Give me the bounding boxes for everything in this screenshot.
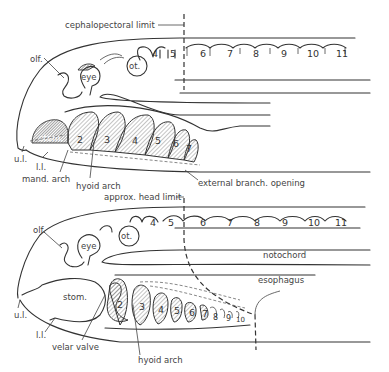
svg-text:eye: eye [81,241,97,251]
svg-text:7: 7 [227,217,233,228]
svg-text:notochord: notochord [263,250,306,260]
svg-text:9: 9 [226,314,231,323]
svg-text:11: 11 [335,217,347,228]
svg-text:4: 4 [150,217,156,228]
notochord-lens [100,94,270,115]
svg-text:mand. arch: mand. arch [22,174,70,184]
head-limit-label: approx. head limit [104,192,182,202]
somite-4: 4 [152,48,158,59]
svg-text:5: 5 [168,217,174,228]
somite-scallops [186,44,346,48]
somite-7: 7 [227,48,233,59]
svg-text:external branch. opening: external branch. opening [198,178,305,188]
svg-text:ot.: ot. [121,231,132,241]
somite-9: 9 [281,48,287,59]
svg-text:hyoid arch: hyoid arch [76,181,121,191]
bottom-panel: approx. head limit notochord esophagus 4… [14,192,370,365]
svg-text:6: 6 [189,307,195,318]
somite-10: 10 [307,48,319,59]
svg-text:eye: eye [81,72,97,82]
embryo-head-diagram: cephalopectoral limit 4 5 6 7 8 9 10 11 … [0,0,389,372]
cephalopectoral-limit-label: cephalopectoral limit [65,20,155,30]
svg-text:u.l.: u.l. [14,154,27,164]
svg-text:7: 7 [202,308,208,319]
svg-text:u.l.: u.l. [14,310,27,320]
ventral-outline-top [26,150,370,172]
svg-text:10: 10 [236,316,245,324]
svg-text:stom.: stom. [63,292,87,302]
svg-text:10: 10 [308,217,320,228]
somite-8: 8 [253,48,259,59]
svg-text:9: 9 [282,217,288,228]
somite-11: 11 [336,48,348,59]
svg-text:stom.: stom. [39,133,63,143]
svg-text:hyoid arch: hyoid arch [138,355,183,365]
svg-text:olf.: olf. [30,54,43,64]
svg-text:5: 5 [155,135,161,146]
svg-text:olf.: olf. [33,225,46,235]
top-panel: cephalopectoral limit 4 5 6 7 8 9 10 11 … [14,14,370,191]
svg-text:3: 3 [104,134,110,145]
somite-5: 5 [170,48,176,59]
svg-text:5: 5 [174,305,180,316]
svg-text:8: 8 [213,313,218,322]
svg-text:4: 4 [132,135,138,146]
svg-text:7: 7 [186,143,192,154]
svg-text:ot.: ot. [129,61,140,71]
svg-text:esophagus: esophagus [258,275,305,285]
notochord [102,250,370,265]
somite-6: 6 [200,48,206,59]
svg-text:l.l.: l.l. [36,330,46,340]
svg-text:l.l.: l.l. [36,162,46,172]
svg-text:2: 2 [77,134,83,145]
svg-text:6: 6 [200,217,206,228]
svg-text:3: 3 [139,301,145,312]
svg-text:velar valve: velar valve [52,342,99,352]
svg-text:4: 4 [158,304,164,315]
svg-text:2: 2 [117,299,123,310]
svg-text:6: 6 [173,138,179,149]
svg-text:8: 8 [254,217,260,228]
olfactory-organ [58,73,82,98]
